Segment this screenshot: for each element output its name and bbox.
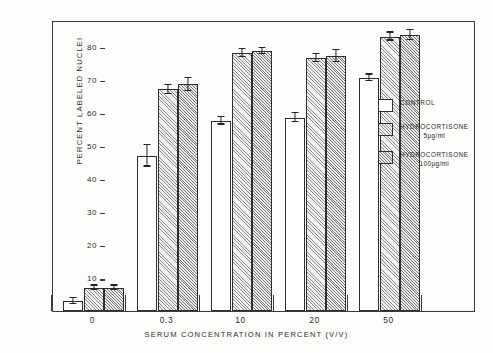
- legend-item: HYDROCORTISONE5µg/ml: [378, 123, 490, 140]
- error-bar-cap: [144, 165, 151, 166]
- legend-label: HYDROCORTISONE100µg/ml: [400, 151, 469, 168]
- error-bar-cap: [407, 39, 414, 40]
- y-axis-tick-label: 20: [87, 241, 97, 250]
- error-bar-cap: [218, 116, 225, 117]
- error-bar-cap: [312, 61, 319, 62]
- chart-legend: CONTROLHYDROCORTISONE5µg/mlHYDROCORTISON…: [378, 99, 490, 179]
- x-axis-group-separator: [51, 295, 52, 311]
- error-bar-cap: [185, 90, 192, 91]
- error-bar-cap: [312, 53, 319, 54]
- bar: [359, 78, 379, 311]
- y-axis-tick-mark: [100, 180, 105, 181]
- bar: [104, 288, 124, 311]
- bar: [158, 89, 178, 311]
- y-axis-tick-mark: [100, 114, 105, 115]
- x-axis-title: SERUM CONCENTRATION IN PERCENT (V/V): [0, 330, 493, 339]
- error-bar-cap: [111, 289, 118, 290]
- x-axis-group-separator: [125, 295, 126, 311]
- error-bar-cap: [164, 84, 171, 85]
- bar: [252, 51, 272, 311]
- legend-swatch: [378, 99, 393, 112]
- error-bar-cap: [238, 48, 245, 49]
- bar: [178, 84, 198, 311]
- error-bar-cap: [70, 297, 77, 298]
- error-bar-cap: [366, 80, 373, 81]
- error-bar-cap: [407, 29, 414, 30]
- x-axis-group-separator: [347, 295, 348, 311]
- error-bar-cap: [70, 303, 77, 304]
- legend-label-line1: HYDROCORTISONE: [400, 123, 469, 130]
- error-bar-cap: [333, 61, 340, 62]
- error-bar-cap: [259, 53, 266, 54]
- legend-label: HYDROCORTISONE5µg/ml: [400, 123, 469, 140]
- error-bar: [146, 145, 147, 167]
- y-axis-tick-label: 60: [87, 109, 97, 118]
- y-axis-tick-label: 10: [87, 274, 97, 283]
- error-bar-cap: [238, 56, 245, 57]
- y-axis-tick-label: 70: [87, 76, 97, 85]
- y-axis-tick-label: 80: [87, 43, 97, 52]
- error-bar-cap: [333, 49, 340, 50]
- x-axis-group-separator: [199, 295, 200, 311]
- y-axis-tick-label: 30: [87, 208, 97, 217]
- legend-label-line1: HYDROCORTISONE: [400, 151, 469, 158]
- legend-item: HYDROCORTISONE100µg/ml: [378, 151, 490, 168]
- error-bar-cap: [386, 39, 393, 40]
- error-bar-cap: [292, 112, 299, 113]
- x-axis-tick-label: 0: [90, 315, 95, 325]
- error-bar-cap: [90, 284, 97, 285]
- bar: [285, 118, 305, 311]
- x-axis-tick-label: 10: [235, 315, 246, 325]
- legend-item: CONTROL: [378, 99, 490, 112]
- bar: [84, 288, 104, 311]
- x-axis-group-separator: [421, 295, 422, 311]
- legend-label-line1: CONTROL: [400, 99, 435, 106]
- y-axis-tick-mark: [100, 147, 105, 148]
- legend-label-line2: 100µg/ml: [400, 160, 469, 169]
- x-axis-tick-label: 50: [383, 315, 394, 325]
- y-axis-tick-mark: [100, 81, 105, 82]
- error-bar-cap: [144, 144, 151, 145]
- x-axis-group-separator: [273, 295, 274, 311]
- error-bar-cap: [366, 73, 373, 74]
- y-axis-tick-label: 50: [87, 142, 97, 151]
- bar: [137, 156, 157, 311]
- x-axis-tick-label: 0.3: [160, 315, 174, 325]
- error-bar-cap: [386, 31, 393, 32]
- y-axis-tick-mark: [100, 48, 105, 49]
- error-bar-cap: [164, 93, 171, 94]
- error-bar-cap: [259, 47, 266, 48]
- error-bar-cap: [185, 77, 192, 78]
- error-bar-cap: [90, 289, 97, 290]
- x-axis-tick-label: 20: [309, 315, 320, 325]
- error-bar-cap: [111, 284, 118, 285]
- error-bar-cap: [218, 123, 225, 124]
- y-axis-tick-mark: [100, 279, 105, 280]
- y-axis-tick-mark: [100, 213, 105, 214]
- bar: [232, 53, 252, 311]
- legend-label: CONTROL: [400, 99, 435, 108]
- legend-swatch: [378, 151, 393, 164]
- figure-bar-chart: PERCENT LABELED NUCLEI SERUM CONCENTRATI…: [0, 0, 493, 353]
- y-axis-tick-label: 40: [87, 175, 97, 184]
- bar: [211, 121, 231, 311]
- legend-swatch: [378, 123, 393, 136]
- bar: [306, 58, 326, 311]
- legend-label-line2: 5µg/ml: [400, 132, 469, 141]
- bar: [326, 56, 346, 311]
- error-bar-cap: [292, 121, 299, 122]
- y-axis-tick-mark: [100, 246, 105, 247]
